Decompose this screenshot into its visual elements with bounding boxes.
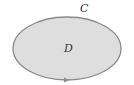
curve-label-c: C	[80, 2, 89, 15]
region-label-d: D	[63, 42, 73, 55]
region-diagram: C D	[0, 0, 134, 85]
